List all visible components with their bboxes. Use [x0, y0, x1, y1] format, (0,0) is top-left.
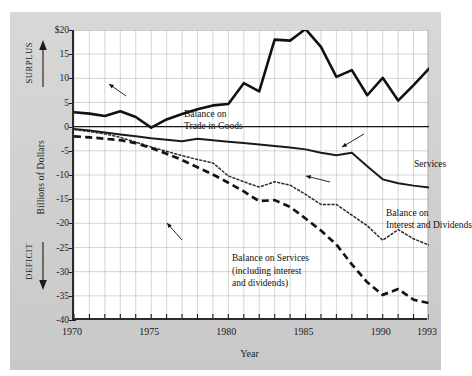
annotation-interest-dividends: Balance on Interest and Dividends: [386, 207, 472, 231]
annotation-balance-services: Balance on Services (including interest …: [232, 252, 352, 290]
y-tick-mark: [69, 320, 76, 321]
surplus-label: SURPLUS: [24, 42, 34, 84]
deficit-label: DEFICIT: [24, 243, 34, 280]
y-tick-label: -30: [56, 267, 69, 277]
x-tick-labels: 197019751980198519901993: [72, 326, 427, 342]
y-tick-label: -35: [56, 291, 69, 301]
x-tick-label: 1985: [294, 326, 314, 337]
y-tick-label: -40: [56, 315, 69, 325]
y-tick-label: 15: [60, 49, 70, 59]
x-axis-title: Year: [72, 348, 427, 359]
y-tick-label: -25: [56, 243, 69, 253]
y-tick-label: -15: [56, 194, 69, 204]
x-tick-label: 1975: [139, 326, 159, 337]
y-tick-label: -5: [61, 146, 69, 156]
plot-area: Balance on Trade in Goods Services Balan…: [72, 30, 427, 320]
top-text-fragment: [18, 0, 318, 10]
y-tick-labels: $20151050-5-10-15-20-25-30-35-40: [40, 30, 69, 320]
x-tick-label: 1990: [371, 326, 391, 337]
x-tick-label: 1970: [62, 326, 82, 337]
y-tick-label: -10: [56, 170, 69, 180]
y-tick-label: -20: [56, 218, 69, 228]
y-tick-label: 10: [60, 73, 70, 83]
x-tick-label: 1980: [216, 326, 236, 337]
axis-ticks: [74, 314, 429, 320]
x-tick-label: 1993: [417, 326, 437, 337]
y-tick-label: $20: [55, 25, 69, 35]
annotation-balance-trade-goods: Balance on Trade in Goods: [184, 108, 243, 132]
annotation-services: Services: [414, 158, 446, 170]
